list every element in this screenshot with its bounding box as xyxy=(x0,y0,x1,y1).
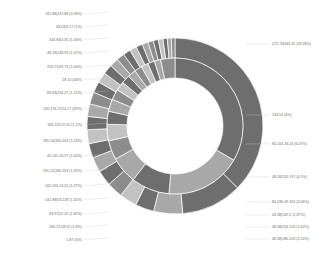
slice-label: 184.23.28.92 (1.8%) xyxy=(49,225,82,229)
slice-label: 141.88|53.228 (1.32%) xyxy=(45,198,82,202)
donut-slice[interactable]: 0.00|1.20 (0.60%) xyxy=(171,38,175,58)
slice-label: 83.97|22.31 (1.85%) xyxy=(49,212,82,216)
labels-left-column: 345.88|119.88 (0.98%)84.03|3.17 (1%)345.… xyxy=(43,12,82,242)
label-leader-line xyxy=(84,238,108,240)
slice-label: 48.28|148.93 (1.07%) xyxy=(47,51,82,55)
slice-label: 272.70|343.35 (33.38%) xyxy=(272,42,311,46)
slice-label: 48.38|156.103 (2.62%) xyxy=(272,225,309,229)
donut-chart-figure: 272.70|343.35 (33.38%)194.54|272.70 (9.9… xyxy=(0,0,335,254)
slice-label: 228.71|93.73 (1.04%) xyxy=(47,65,82,69)
slice-label: 184.119.07.02 (1.2%) xyxy=(47,123,82,127)
label-leader-line xyxy=(84,184,108,186)
slice-label: 5.87 (5%) xyxy=(66,238,82,242)
slice-label: 195.51|180.203 (1.29%) xyxy=(43,169,82,173)
slice-label: 84.336.49.359 (3.06%) xyxy=(272,200,309,204)
slice-label: 83.83|194.27 (1.12%) xyxy=(47,91,82,95)
slice-label: 84.03|3.17 (1%) xyxy=(56,25,82,29)
label-leader-line xyxy=(84,225,108,227)
slice-label: 149.176.27|54.17 (95%) xyxy=(43,107,82,111)
slice-label: 43.38|149.5 (2.87%) xyxy=(272,213,305,217)
slice-label: 28.10 (46%) xyxy=(62,78,82,82)
label-leader-line xyxy=(84,65,108,67)
slice-label: 345.84|0.35 (1.06%) xyxy=(49,38,82,42)
slice-label: 84.104.33.24 (6.07%) xyxy=(272,142,307,146)
label-leader-line xyxy=(84,51,108,53)
label-leader-line xyxy=(84,12,108,14)
slice-label: 165.196.13.52 (1.27%) xyxy=(45,184,82,188)
donut-ring-inner: 272.70|343.35 (33.38%)194.54|272.70 (18.… xyxy=(107,58,243,194)
label-leader-line xyxy=(84,198,108,200)
slice-label: 48.28|132.197 (4.5%) xyxy=(272,175,307,179)
slice-label: 48.38|186.203 (2.54%) xyxy=(272,237,309,241)
label-leader-line xyxy=(84,38,108,40)
slice-label: 345.88|119.88 (0.98%) xyxy=(45,12,82,16)
donut-chart-svg: 272.70|343.35 (33.38%)194.54|272.70 (9.9… xyxy=(0,0,335,254)
slice-label: 45.145.03.97 (1.24%) xyxy=(47,154,82,158)
slice-label: 194.54 (6%) xyxy=(272,113,292,117)
label-leader-line xyxy=(84,25,108,27)
slice-label: 185.54|180.203 (1.23%) xyxy=(43,139,82,143)
labels-right-column: 272.70|343.35 (33.38%)194.54 (6%)84.104.… xyxy=(272,42,311,241)
label-leader-line xyxy=(84,212,108,214)
